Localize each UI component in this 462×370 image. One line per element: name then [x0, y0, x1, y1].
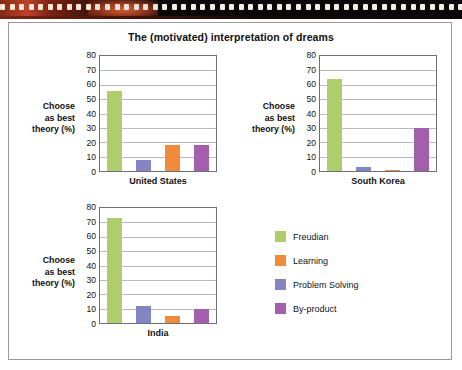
plot-area-wrapper: 80706050403020100: [319, 55, 437, 172]
y-axis-label-line-3: theory (%): [13, 278, 75, 290]
film-perforation: [162, 4, 167, 10]
bar-freudian: [327, 79, 342, 171]
y-axis-label: Choose as best theory (%): [233, 101, 295, 136]
film-perforation: [220, 4, 225, 10]
film-perforation: [95, 4, 100, 10]
legend-item: By-product: [275, 303, 359, 314]
y-axis-ticks: 80706050403020100: [296, 55, 316, 172]
y-axis-label-line-3: theory (%): [233, 124, 295, 136]
film-perforation: [353, 4, 358, 10]
plot-area: [319, 55, 437, 172]
film-perforation: [0, 4, 5, 10]
y-axis-tick-label: 20: [86, 138, 96, 147]
film-perforation: [229, 4, 234, 10]
film-perforation: [86, 4, 91, 10]
film-perforation: [420, 4, 425, 10]
figure-frame: The (motivated) interpretation of dreams…: [8, 22, 452, 360]
y-axis-tick-label: 20: [306, 138, 316, 147]
y-axis-label: Choose as best theory (%): [13, 255, 75, 290]
plot-area: [99, 55, 217, 172]
y-axis-tick-label: 60: [86, 80, 96, 89]
film-perforation: [38, 4, 43, 10]
film-perforation: [458, 4, 462, 10]
film-perforation: [344, 4, 349, 10]
bar-problem-solving: [136, 306, 151, 323]
bar-group: [100, 56, 216, 171]
bar-problem-solving: [136, 160, 151, 172]
legend-label: Freudian: [293, 232, 329, 242]
legend-item: Learning: [275, 255, 359, 266]
bar-learning: [165, 316, 180, 323]
chart-panel-united-states: Choose as best theory (%) 80706050403020…: [9, 49, 231, 199]
bar-slot: [407, 56, 436, 171]
y-axis-tick-label: 30: [86, 124, 96, 133]
bar-freudian: [107, 218, 122, 323]
film-perforation: [248, 4, 253, 10]
plot-area-wrapper: 80706050403020100: [99, 55, 217, 172]
y-axis-tick-label: 0: [91, 320, 96, 329]
y-axis-label-line-1: Choose: [13, 101, 75, 113]
film-perforation: [401, 4, 406, 10]
bar-slot: [100, 208, 129, 323]
legend-swatch-icon: [275, 255, 286, 266]
y-axis-tick-label: 50: [86, 247, 96, 256]
film-perforation: [105, 4, 110, 10]
film-perforation: [181, 4, 186, 10]
chart-panel-india: Choose as best theory (%) 80706050403020…: [9, 199, 231, 354]
y-axis-tick-label: 70: [86, 217, 96, 226]
bar-by-product: [414, 128, 429, 171]
y-axis-label-line-3: theory (%): [13, 124, 75, 136]
film-perforation: [48, 4, 53, 10]
bar-slot: [129, 208, 158, 323]
bar-by-product: [194, 309, 209, 323]
film-perforation: [258, 4, 263, 10]
y-axis-tick-label: 0: [311, 168, 316, 177]
y-axis-tick-label: 70: [86, 65, 96, 74]
film-perforation: [315, 4, 320, 10]
bar-freudian: [107, 91, 122, 172]
bar-slot: [158, 208, 187, 323]
bar-slot: [187, 56, 216, 171]
y-axis-tick-label: 20: [86, 290, 96, 299]
legend-label: By-product: [293, 304, 337, 314]
film-perforation: [67, 4, 72, 10]
bar-learning: [385, 170, 400, 171]
bar-by-product: [194, 145, 209, 171]
bar-slot: [129, 56, 158, 171]
y-axis-tick-label: 10: [86, 153, 96, 162]
film-perforation: [267, 4, 272, 10]
film-perforation: [210, 4, 215, 10]
y-axis-tick-label: 0: [91, 168, 96, 177]
legend-swatch-icon: [275, 279, 286, 290]
film-perforation: [57, 4, 62, 10]
film-perforation: [449, 4, 454, 10]
bar-group: [100, 208, 216, 323]
legend-label: Learning: [293, 256, 328, 266]
legend-item: Problem Solving: [275, 279, 359, 290]
plot-area: [99, 207, 217, 324]
bar-group: [320, 56, 436, 171]
bar-slot: [378, 56, 407, 171]
y-axis-tick-label: 40: [86, 109, 96, 118]
y-axis-ticks: 80706050403020100: [76, 55, 96, 172]
film-perforation: [153, 4, 158, 10]
film-strip-border: [0, 0, 462, 19]
y-axis-label-line-2: as best: [13, 267, 75, 279]
y-axis-tick-label: 10: [306, 153, 316, 162]
film-perforation: [306, 4, 311, 10]
film-strip-perforations: [0, 3, 462, 10]
film-perforation: [200, 4, 205, 10]
y-axis-tick-label: 40: [86, 261, 96, 270]
category-label: United States: [99, 176, 217, 186]
bar-problem-solving: [356, 167, 371, 171]
bar-slot: [158, 56, 187, 171]
film-perforation: [29, 4, 34, 10]
y-axis-tick-label: 10: [86, 305, 96, 314]
y-axis-tick-label: 80: [86, 203, 96, 212]
y-axis-tick-label: 60: [86, 232, 96, 241]
film-perforation: [325, 4, 330, 10]
legend-swatch-icon: [275, 231, 286, 242]
page-title: The (motivated) interpretation of dreams: [9, 31, 453, 43]
film-perforation: [363, 4, 368, 10]
film-perforation: [439, 4, 444, 10]
